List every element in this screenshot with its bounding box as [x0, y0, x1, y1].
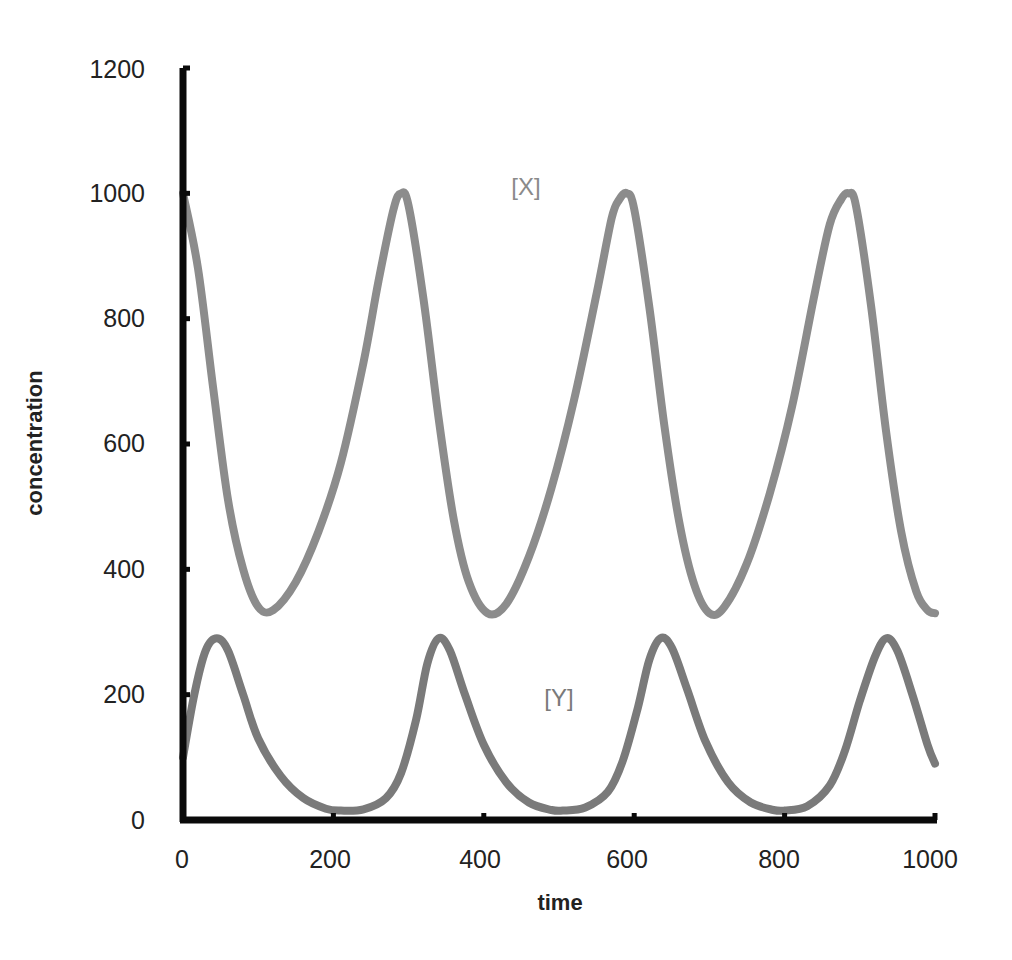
x-tick-label: 400 [459, 845, 501, 873]
x-tick-label: 0 [175, 845, 189, 873]
series-y-line [183, 638, 935, 811]
x-tick-labels: 0 200 400 600 800 1000 [175, 845, 958, 873]
series-x-line [183, 192, 935, 615]
y-tick-label: 1200 [89, 55, 145, 83]
y-tick-label: 200 [103, 680, 145, 708]
x-tick-label: 1000 [902, 845, 958, 873]
y-axis-title: concentration [22, 370, 47, 515]
y-tick-label: 0 [131, 806, 145, 834]
series-y-label: [Y] [544, 684, 573, 711]
x-tick-label: 200 [309, 845, 351, 873]
y-tick-label: 800 [103, 304, 145, 332]
x-tick-label: 600 [606, 845, 648, 873]
y-tick-labels: 0 200 400 600 800 1000 1200 [89, 55, 145, 834]
y-tick-label: 1000 [89, 179, 145, 207]
y-tick-label: 600 [103, 429, 145, 457]
line-chart: 0 200 400 600 800 1000 1200 0 200 400 60… [0, 0, 1012, 960]
series-x-label: [X] [511, 173, 540, 200]
plot-series [183, 192, 935, 811]
x-axis-title: time [537, 890, 582, 915]
x-tick-label: 800 [758, 845, 800, 873]
y-tick-label: 400 [103, 555, 145, 583]
